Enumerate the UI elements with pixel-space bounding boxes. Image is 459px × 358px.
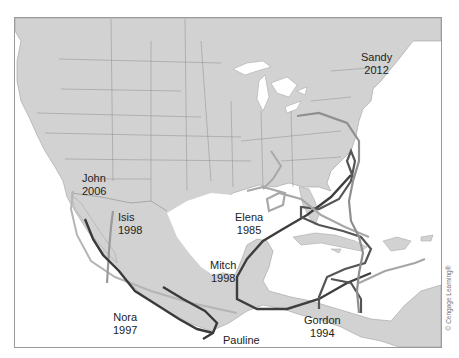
hurricane-name: Nora [113, 311, 137, 324]
hurricane-name: Isis [118, 211, 142, 224]
label-gordon: Gordon 1994 [304, 314, 341, 340]
hurricane-year: 1997 [223, 347, 260, 348]
label-isis: Isis 1998 [118, 211, 142, 237]
copyright-credit: © Cengage Learning® [441, 250, 455, 346]
hurricane-year: 1985 [235, 224, 263, 237]
puerto-rico [421, 235, 433, 241]
hurricane-name: Gordon [304, 314, 341, 327]
map-frame: Sandy 2012 John 2006 Isis 1998 Elena 198… [14, 17, 442, 348]
hurricane-year: 2006 [82, 185, 106, 198]
credit-text: © Cengage Learning® [445, 266, 452, 331]
hurricane-year: 1998 [210, 272, 236, 285]
hurricane-name: Pauline [223, 334, 260, 347]
hurricane-name: Elena [235, 211, 263, 224]
label-mitch: Mitch 1998 [210, 259, 236, 285]
jamaica [331, 249, 341, 253]
hurricane-name: Sandy [361, 51, 392, 64]
label-elena: Elena 1985 [235, 211, 263, 237]
label-john: John 2006 [82, 172, 106, 198]
hurricane-name: Mitch [210, 259, 236, 272]
hurricane-year: 2012 [361, 64, 392, 77]
hurricane-name: John [82, 172, 106, 185]
hurricane-year: 1998 [118, 224, 142, 237]
label-nora: Nora 1997 [113, 311, 137, 337]
track-sandy-branch [359, 259, 425, 283]
hispaniola [383, 237, 411, 251]
hurricane-year: 1994 [304, 327, 341, 340]
hurricane-year: 1997 [113, 324, 137, 337]
label-pauline: Pauline 1997 [223, 334, 260, 348]
label-sandy: Sandy 2012 [361, 51, 392, 77]
